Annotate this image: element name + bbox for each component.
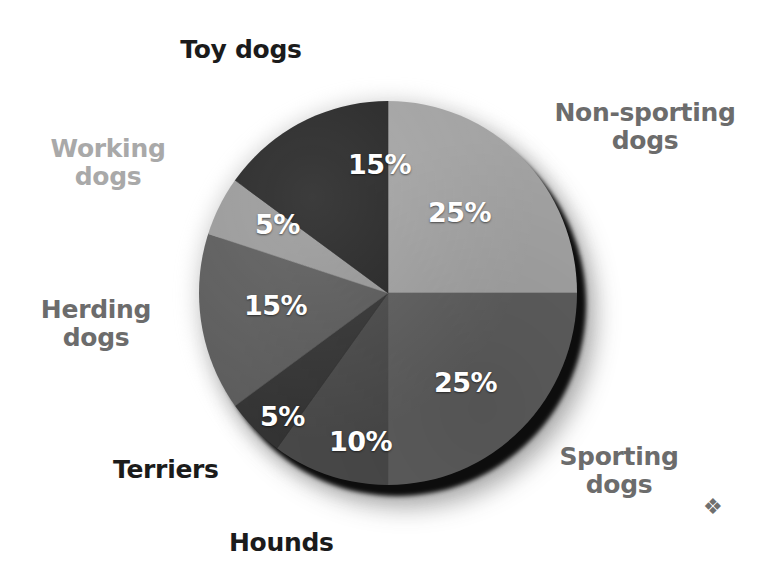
category-label-sporting-dogs: Sporting dogs bbox=[536, 443, 702, 499]
slice-value-hounds: 10% bbox=[329, 426, 392, 457]
decorative-floret-icon: ❖ bbox=[703, 496, 723, 518]
chart-figure: 15% 25% 5% 15% 5% 10% 25% Toy dogs Non-s… bbox=[0, 0, 764, 588]
slice-value-toy-dogs: 15% bbox=[348, 149, 411, 180]
slice-value-sporting-dogs: 25% bbox=[434, 367, 497, 398]
slice-value-non-sporting-dogs: 25% bbox=[428, 197, 491, 228]
category-label-toy-dogs: Toy dogs bbox=[146, 36, 336, 64]
slice-value-working-dogs: 5% bbox=[255, 209, 300, 240]
category-label-terriers: Terriers bbox=[113, 456, 219, 484]
category-label-working-dogs: Working dogs bbox=[25, 135, 191, 191]
category-label-herding-dogs: Herding dogs bbox=[13, 296, 179, 352]
slice-value-herding-dogs: 15% bbox=[244, 290, 307, 321]
pie-chart: 15% 25% 5% 15% 5% 10% 25% bbox=[199, 101, 577, 485]
category-label-hounds: Hounds bbox=[229, 529, 334, 557]
slice-value-terriers: 5% bbox=[260, 401, 305, 432]
category-label-non-sporting-dogs: Non-sporting dogs bbox=[531, 99, 759, 155]
